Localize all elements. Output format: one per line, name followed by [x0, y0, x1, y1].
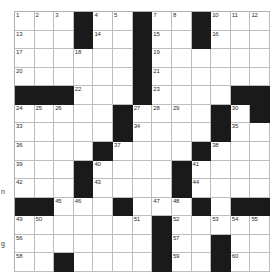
crossword-cell[interactable]: 55: [250, 216, 270, 235]
crossword-cell[interactable]: 60: [231, 253, 251, 272]
crossword-cell[interactable]: [113, 31, 133, 50]
crossword-cell[interactable]: 2: [35, 12, 55, 31]
crossword-cell[interactable]: [54, 179, 74, 198]
crossword-cell[interactable]: [113, 253, 133, 272]
crossword-cell[interactable]: [231, 161, 251, 180]
crossword-cell[interactable]: 17: [15, 49, 35, 68]
crossword-cell[interactable]: [192, 49, 212, 68]
crossword-cell[interactable]: 56: [15, 235, 35, 254]
crossword-cell[interactable]: [250, 179, 270, 198]
crossword-cell[interactable]: [231, 68, 251, 87]
crossword-cell[interactable]: [211, 179, 231, 198]
crossword-cell[interactable]: 21: [152, 68, 172, 87]
crossword-cell[interactable]: [74, 105, 94, 124]
crossword-cell[interactable]: [35, 68, 55, 87]
crossword-cell[interactable]: [231, 49, 251, 68]
crossword-cell[interactable]: [192, 86, 212, 105]
crossword-cell[interactable]: 20: [15, 68, 35, 87]
crossword-cell[interactable]: 35: [231, 123, 251, 142]
crossword-cell[interactable]: [250, 161, 270, 180]
crossword-cell[interactable]: 8: [172, 12, 192, 31]
crossword-cell[interactable]: [133, 235, 153, 254]
crossword-cell[interactable]: [35, 161, 55, 180]
crossword-cell[interactable]: [113, 161, 133, 180]
crossword-cell[interactable]: [250, 49, 270, 68]
crossword-cell[interactable]: [54, 123, 74, 142]
crossword-cell[interactable]: [93, 49, 113, 68]
crossword-cell[interactable]: [192, 253, 212, 272]
crossword-cell[interactable]: [211, 86, 231, 105]
crossword-cell[interactable]: 14: [93, 31, 113, 50]
crossword-cell[interactable]: 42: [15, 179, 35, 198]
crossword-cell[interactable]: 38: [211, 142, 231, 161]
crossword-cell[interactable]: [152, 123, 172, 142]
crossword-cell[interactable]: [74, 235, 94, 254]
crossword-cell[interactable]: [172, 86, 192, 105]
crossword-cell[interactable]: 1: [15, 12, 35, 31]
crossword-cell[interactable]: 46: [74, 198, 94, 217]
crossword-cell[interactable]: [192, 216, 212, 235]
crossword-cell[interactable]: [250, 31, 270, 50]
crossword-cell[interactable]: [93, 235, 113, 254]
crossword-cell[interactable]: [54, 68, 74, 87]
crossword-cell[interactable]: [93, 253, 113, 272]
crossword-cell[interactable]: [250, 68, 270, 87]
crossword-cell[interactable]: 12: [250, 12, 270, 31]
crossword-cell[interactable]: [74, 123, 94, 142]
crossword-cell[interactable]: 50: [35, 216, 55, 235]
crossword-cell[interactable]: [172, 142, 192, 161]
crossword-cell[interactable]: [172, 123, 192, 142]
crossword-cell[interactable]: 43: [93, 179, 113, 198]
crossword-cell[interactable]: 25: [35, 105, 55, 124]
crossword-cell[interactable]: [54, 216, 74, 235]
crossword-cell[interactable]: 41: [192, 161, 212, 180]
crossword-cell[interactable]: 11: [231, 12, 251, 31]
crossword-cell[interactable]: [231, 142, 251, 161]
crossword-cell[interactable]: 39: [15, 161, 35, 180]
crossword-cell[interactable]: [54, 49, 74, 68]
crossword-cell[interactable]: [54, 161, 74, 180]
crossword-cell[interactable]: 27: [133, 105, 153, 124]
crossword-cell[interactable]: [192, 68, 212, 87]
crossword-cell[interactable]: 36: [15, 142, 35, 161]
crossword-cell[interactable]: [250, 123, 270, 142]
crossword-cell[interactable]: [113, 179, 133, 198]
crossword-cell[interactable]: 15: [152, 31, 172, 50]
crossword-cell[interactable]: 23: [152, 86, 172, 105]
crossword-cell[interactable]: 34: [133, 123, 153, 142]
crossword-cell[interactable]: 54: [231, 216, 251, 235]
crossword-cell[interactable]: [93, 123, 113, 142]
crossword-cell[interactable]: [133, 161, 153, 180]
crossword-cell[interactable]: [250, 142, 270, 161]
crossword-cell[interactable]: [231, 235, 251, 254]
crossword-cell[interactable]: 7: [152, 12, 172, 31]
crossword-cell[interactable]: [231, 179, 251, 198]
crossword-cell[interactable]: [35, 31, 55, 50]
crossword-cell[interactable]: [192, 105, 212, 124]
crossword-cell[interactable]: [152, 142, 172, 161]
crossword-cell[interactable]: 51: [133, 216, 153, 235]
crossword-cell[interactable]: 48: [172, 198, 192, 217]
crossword-cell[interactable]: [74, 253, 94, 272]
crossword-cell[interactable]: [54, 235, 74, 254]
crossword-cell[interactable]: [35, 235, 55, 254]
crossword-cell[interactable]: [152, 161, 172, 180]
crossword-cell[interactable]: [192, 235, 212, 254]
crossword-cell[interactable]: [35, 123, 55, 142]
crossword-cell[interactable]: [74, 142, 94, 161]
crossword-cell[interactable]: [211, 49, 231, 68]
crossword-cell[interactable]: 19: [152, 49, 172, 68]
crossword-cell[interactable]: 3: [54, 12, 74, 31]
crossword-cell[interactable]: 13: [15, 31, 35, 50]
crossword-cell[interactable]: 58: [15, 253, 35, 272]
crossword-cell[interactable]: 57: [172, 235, 192, 254]
crossword-cell[interactable]: [192, 123, 212, 142]
crossword-grid[interactable]: 1234578101112131415161718192021222324252…: [14, 11, 270, 272]
crossword-cell[interactable]: 18: [74, 49, 94, 68]
crossword-cell[interactable]: [172, 49, 192, 68]
crossword-cell[interactable]: [250, 235, 270, 254]
crossword-cell[interactable]: 37: [113, 142, 133, 161]
crossword-cell[interactable]: 22: [74, 86, 94, 105]
crossword-cell[interactable]: [211, 68, 231, 87]
crossword-cell[interactable]: [35, 253, 55, 272]
